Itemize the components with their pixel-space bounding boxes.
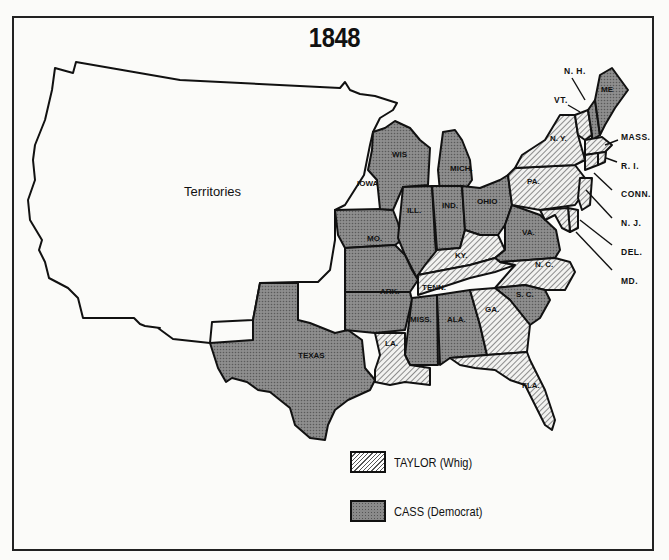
state-conn — [585, 153, 598, 170]
state-ark — [345, 292, 412, 333]
label-tenn: TENN. — [422, 283, 446, 292]
territories-region — [28, 62, 397, 343]
label-nh: N. H. — [564, 66, 586, 76]
label-ala: ALA. — [447, 315, 466, 324]
label-ill: ILL. — [407, 206, 421, 215]
legend-label-democrat: CASS (Democrat) — [394, 504, 482, 519]
label-ohio: OHIO — [477, 197, 497, 206]
label-ark: ARK. — [380, 287, 400, 296]
label-va: VA. — [522, 228, 535, 237]
label-ky: KY. — [455, 251, 467, 260]
label-territories: Territories — [184, 184, 242, 199]
label-ri: R. I. — [621, 161, 639, 171]
label-me: ME — [601, 85, 614, 94]
label-md: MD. — [621, 276, 638, 286]
label-ny: N. Y. — [550, 134, 567, 143]
label-la: LA. — [385, 339, 398, 348]
label-texas: TEXAS — [298, 351, 325, 360]
whig-swatch-icon — [350, 451, 386, 473]
label-iowa: IOWA — [357, 179, 379, 188]
label-nj: N. J. — [621, 218, 641, 228]
label-mich: MICH. — [450, 164, 473, 173]
label-ga: GA. — [485, 305, 499, 314]
election-map: WIS MICH. IOWA ILL. IND. OHIO MO. KY. VA… — [0, 0, 669, 560]
state-pa — [508, 165, 585, 210]
label-mo: MO. — [367, 234, 382, 243]
state-fla — [450, 352, 555, 430]
state-me — [595, 68, 628, 135]
label-del: DEL. — [621, 247, 642, 257]
label-nc: N. C. — [535, 260, 553, 269]
state-mich — [438, 130, 472, 192]
label-ind: IND. — [442, 201, 458, 210]
label-fla: FLA. — [522, 381, 540, 390]
label-conn: CONN. — [621, 189, 651, 199]
label-mass: MASS. — [621, 132, 650, 142]
state-ind — [432, 186, 465, 250]
legend-label-whig: TAYLOR (Whig) — [394, 455, 472, 470]
label-sc: S. C. — [516, 290, 534, 299]
label-vt: VT. — [554, 95, 568, 105]
state-ri — [598, 152, 606, 165]
label-pa: PA. — [527, 177, 540, 186]
label-wis: WIS — [392, 150, 408, 159]
democrat-swatch-icon — [350, 500, 386, 522]
label-miss: MISS. — [410, 315, 432, 324]
